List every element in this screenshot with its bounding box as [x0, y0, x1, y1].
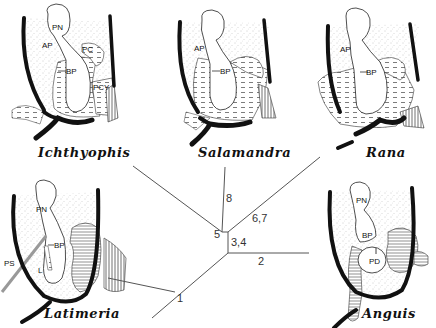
diagram-canvas: PN AP BP PC PCY AP BP AP BP	[0, 0, 436, 328]
panel-salamandra: AP BP	[179, 10, 276, 144]
label-bp: BP	[54, 241, 65, 250]
label-pn: PN	[36, 205, 47, 214]
label-bp: BP	[366, 68, 377, 77]
label-ap: AP	[194, 44, 205, 53]
label-pn: PN	[52, 23, 63, 32]
branch-root	[152, 253, 228, 318]
panel-ichthyophis: PN AP BP PC PCY	[12, 4, 118, 138]
label-pcy: PCY	[93, 83, 110, 92]
branch-ichthyophis	[133, 166, 222, 232]
label-bp: BP	[220, 67, 231, 76]
label-ap: AP	[340, 45, 351, 54]
taxon-name-salamandra: Salamandra	[198, 145, 291, 160]
label-pn: PN	[356, 196, 367, 205]
branch-label-1: 1	[177, 292, 183, 304]
branch-label-3-4: 3,4	[231, 236, 246, 248]
branch-label-2: 2	[258, 255, 264, 267]
panel-latimeria: PN BP PS L	[2, 180, 126, 322]
label-bp: BP	[66, 67, 77, 76]
label-ap: AP	[42, 41, 53, 50]
label-pd: PD	[369, 257, 380, 266]
label-bp: BP	[362, 231, 373, 240]
label-ps: PS	[4, 259, 15, 268]
taxon-name-latimeria: Latimeria	[44, 306, 120, 321]
branch-label-5: 5	[214, 228, 220, 240]
branch-salamandra	[222, 167, 225, 232]
taxon-name-rana: Rana	[366, 145, 406, 160]
branch-label-6-7: 6,7	[252, 212, 267, 224]
panel-rana: AP BP	[318, 8, 424, 148]
label-pc: PC	[82, 45, 93, 54]
taxon-name-anguis: Anguis	[362, 306, 416, 321]
branch-label-8: 8	[226, 192, 232, 204]
taxon-name-ichthyophis: Ichthyophis	[38, 145, 131, 160]
branch-rana	[228, 157, 320, 232]
figure: PN AP BP PC PCY AP BP AP BP	[0, 0, 436, 328]
label-l: L	[38, 266, 43, 275]
